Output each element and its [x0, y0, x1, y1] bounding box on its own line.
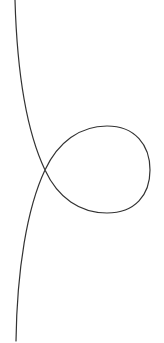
loop-curve: [15, 0, 150, 341]
loop-curve-diagram: [0, 0, 164, 343]
